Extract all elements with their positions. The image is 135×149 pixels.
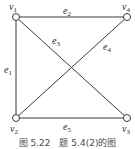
- edge-label-sub: 3: [56, 40, 60, 48]
- edge-label-sub: 5: [67, 126, 71, 134]
- edge-label-e3: e3: [52, 36, 60, 49]
- edge-label-e5: e5: [63, 122, 71, 135]
- edge-label-e4: e4: [103, 42, 111, 55]
- figure-caption: 图 5.22 题 5.4(2)的图: [0, 138, 135, 149]
- vertex-label-v4: v4: [122, 2, 130, 15]
- vertex-label-sub: 4: [126, 6, 130, 14]
- edge-label-sub: 4: [107, 46, 111, 54]
- vertex-v3: [124, 115, 131, 122]
- edge-label-e2: e2: [63, 6, 71, 19]
- vertex-label-sub: 3: [126, 128, 130, 136]
- vertex-label-sub: 2: [14, 128, 18, 136]
- vertex-label-sub: 1: [13, 6, 17, 14]
- vertex-v2: [13, 115, 20, 122]
- vertex-label-v3: v3: [122, 124, 130, 137]
- edge-label-sub: 1: [8, 69, 12, 77]
- graph-figure: v1 v4 v2 v3 e2 e3 e4 e1 e5 图 5.22 题 5.4(…: [0, 0, 135, 149]
- vertex-label-v2: v2: [10, 124, 18, 137]
- vertex-label-v1: v1: [9, 2, 17, 15]
- edge-label-sub: 2: [67, 10, 71, 18]
- edge-label-e1: e1: [4, 65, 12, 78]
